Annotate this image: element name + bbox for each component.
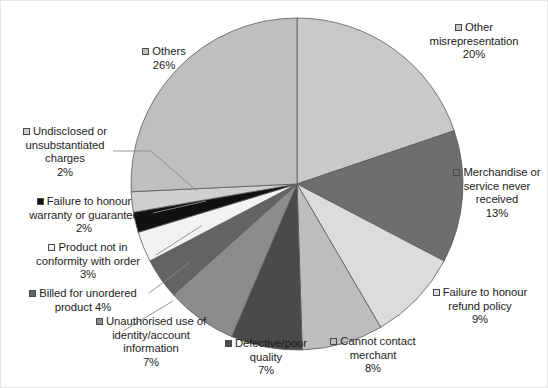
label-billed-unordered-product: Billed for unordered product 4%: [17, 287, 149, 314]
label-text: unsubstantiated: [9, 139, 121, 153]
label-value: 7%: [211, 364, 321, 378]
label-text: refund policy: [411, 300, 548, 314]
label-text: received: [445, 193, 548, 207]
label-value: product 4%: [17, 301, 149, 315]
label-text: Cannot contact: [340, 335, 415, 347]
swatch-other-misrepresentation: [455, 24, 462, 31]
label-failure-refund-policy: Failure to honour refund policy 9%: [411, 286, 548, 327]
label-text: Other: [465, 21, 493, 33]
label-text: Failure to honour: [443, 286, 528, 298]
label-text: service never: [445, 180, 548, 194]
label-value: 13%: [445, 207, 548, 221]
label-text: Billed for unordered: [39, 287, 137, 299]
label-text: Unauthorised use of: [106, 315, 206, 327]
label-text: information: [85, 342, 217, 356]
swatch-cannot-contact-merchant: [330, 338, 337, 345]
swatch-product-not-in-conformity: [48, 244, 55, 251]
label-cannot-contact-merchant: Cannot contact merchant 8%: [313, 335, 433, 376]
label-text: misrepresentation: [399, 35, 548, 49]
swatch-billed-unordered-product: [29, 290, 36, 297]
label-product-not-in-conformity: Product not in conformity with order 3%: [21, 241, 155, 282]
label-text: Others: [152, 45, 186, 57]
label-text: charges: [9, 152, 121, 166]
label-text: Merchandise or: [463, 166, 540, 178]
label-value: 26%: [119, 59, 209, 73]
label-text: conformity with order: [21, 255, 155, 269]
label-text: identity/account: [85, 329, 217, 343]
label-value: 9%: [411, 313, 548, 327]
label-value: 2%: [9, 166, 121, 180]
label-undisclosed-charges: Undisclosed or unsubstantiated charges 2…: [9, 125, 121, 179]
swatch-undisclosed-charges: [23, 128, 30, 135]
swatch-failure-refund-policy: [433, 289, 440, 296]
label-value: 2%: [13, 222, 155, 236]
label-unauthorised-use-identity: Unauthorised use of identity/account inf…: [85, 315, 217, 369]
swatch-others: [142, 48, 149, 55]
label-merchandise-never-received: Merchandise or service never received 13…: [445, 166, 548, 220]
swatch-defective-poor-quality: [225, 340, 232, 347]
label-others: Others 26%: [119, 45, 209, 72]
swatch-unauthorised-use-identity: [96, 318, 103, 325]
swatch-failure-warranty-guarantee: [37, 198, 44, 205]
label-value: 8%: [313, 362, 433, 376]
label-other-misrepresentation: Other misrepresentation 20%: [399, 21, 548, 62]
label-text: Product not in: [58, 241, 127, 253]
label-text: merchant: [313, 349, 433, 363]
label-text: Failure to honour: [47, 195, 132, 207]
pie-chart: Other misrepresentation 20% Merchandise …: [1, 1, 548, 388]
label-text: Defective/poor: [235, 337, 307, 349]
label-value: 7%: [85, 356, 217, 370]
chart-frame: Other misrepresentation 20% Merchandise …: [0, 0, 548, 388]
label-text: warranty or guarantee: [13, 209, 155, 223]
label-text: quality: [211, 351, 321, 365]
label-value: 20%: [399, 48, 548, 62]
label-text: Undisclosed or: [33, 125, 107, 137]
label-value: 3%: [21, 268, 155, 282]
label-failure-warranty-guarantee: Failure to honour warranty or guarantee …: [13, 195, 155, 236]
label-defective-poor-quality: Defective/poor quality 7%: [211, 337, 321, 378]
swatch-merchandise-never-received: [453, 169, 460, 176]
